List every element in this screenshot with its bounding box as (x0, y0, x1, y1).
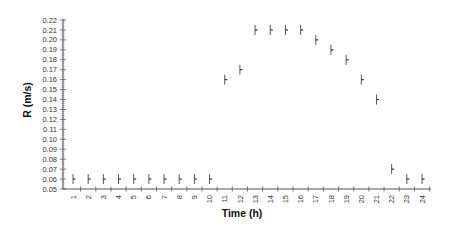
data-point (301, 25, 304, 35)
y-tick-label: 0.16 (42, 75, 57, 84)
y-tick-label: 0.22 (42, 16, 57, 25)
data-point (255, 25, 257, 35)
x-tick-label: 20 (357, 195, 366, 203)
y-tick-label: 0.12 (42, 115, 57, 124)
data-point (149, 174, 152, 184)
y-tick-label: 0.10 (42, 135, 57, 144)
data-point (134, 174, 137, 184)
x-tick-label: 14 (266, 195, 275, 203)
x-tick-label: 17 (311, 195, 320, 203)
data-point (331, 45, 334, 55)
x-axis-title: Time (h) (222, 207, 263, 219)
data-point (240, 65, 243, 75)
y-axis: 0.050.060.070.080.090.100.110.120.130.14… (42, 16, 66, 194)
y-tick-label: 0.13 (42, 105, 57, 114)
y-tick-label: 0.15 (42, 85, 57, 94)
x-tick-label: 16 (296, 195, 305, 203)
y-tick-label: 0.21 (42, 26, 57, 35)
data-point (346, 55, 349, 65)
data-point (210, 174, 213, 184)
x-tick-label: 21 (372, 195, 381, 203)
x-tick-label: 22 (387, 195, 396, 203)
y-tick-label: 0.20 (42, 35, 57, 44)
data-point (225, 75, 228, 85)
x-tick-label: 3 (99, 195, 108, 199)
data-point (88, 174, 91, 184)
data-point (164, 174, 167, 184)
x-tick-label: 6 (144, 195, 153, 199)
data-point (119, 174, 122, 184)
data-point (270, 25, 273, 35)
data-point (285, 25, 288, 35)
data-points (73, 25, 425, 184)
x-tick-label: 8 (175, 195, 184, 199)
x-tick-label: 24 (418, 195, 427, 203)
y-tick-label: 0.11 (43, 125, 57, 134)
data-point (316, 35, 319, 45)
x-axis: 123456789101112131415161718192021222324 (63, 187, 431, 204)
y-tick-label: 0.08 (42, 155, 57, 164)
x-tick-label: 2 (84, 195, 93, 199)
y-tick-label: 0.18 (42, 55, 57, 64)
x-tick-label: 1 (69, 195, 78, 199)
data-point (361, 75, 364, 85)
y-tick-label: 0.17 (42, 65, 57, 74)
y-tick-label: 0.06 (42, 175, 57, 184)
x-tick-label: 15 (281, 195, 290, 203)
y-tick-label: 0.07 (42, 165, 57, 174)
data-point (376, 95, 379, 105)
data-point (194, 174, 197, 184)
x-tick-label: 7 (160, 195, 169, 199)
y-tick-label: 0.19 (42, 45, 57, 54)
data-point (422, 174, 425, 184)
x-tick-label: 18 (327, 195, 336, 203)
x-tick-label: 12 (236, 195, 245, 203)
chart: 0.050.060.070.080.090.100.110.120.130.14… (0, 0, 452, 226)
data-point (179, 174, 182, 184)
data-point (103, 174, 106, 184)
x-tick-label: 11 (220, 195, 229, 203)
data-point (73, 174, 76, 184)
x-tick-label: 9 (190, 195, 199, 199)
x-tick-label: 23 (402, 195, 411, 203)
x-tick-label: 10 (205, 195, 214, 203)
data-point (407, 174, 410, 184)
y-tick-label: 0.05 (42, 185, 57, 194)
y-tick-label: 0.09 (42, 145, 57, 154)
y-tick-label: 0.14 (42, 95, 57, 104)
y-axis-title: R (m/s) (21, 82, 33, 118)
x-tick-label: 13 (251, 195, 260, 203)
x-tick-label: 19 (342, 195, 351, 203)
data-point (392, 164, 395, 174)
x-tick-label: 4 (114, 195, 123, 199)
x-tick-label: 5 (129, 195, 138, 199)
